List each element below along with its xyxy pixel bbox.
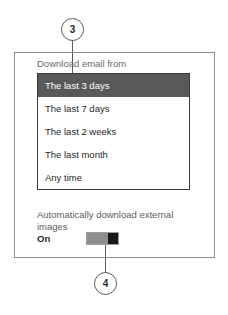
listbox-option-last-3-days[interactable]: The last 3 days [38, 74, 189, 97]
download-email-from-listbox[interactable]: The last 3 days The last 7 days The last… [37, 73, 190, 190]
callout-marker-4-label: 4 [103, 279, 109, 289]
listbox-option-last-2-weeks[interactable]: The last 2 weeks [38, 120, 189, 143]
toggle-thumb [108, 233, 118, 244]
external-images-toggle[interactable] [86, 232, 119, 245]
listbox-option-any-time[interactable]: Any time [38, 166, 189, 189]
listbox-option-label: Any time [45, 172, 82, 183]
callout-marker-3: 3 [61, 18, 84, 41]
listbox-option-last-month[interactable]: The last month [38, 143, 189, 166]
listbox-option-label: The last 2 weeks [45, 126, 116, 137]
external-images-state-label: On [37, 233, 50, 244]
listbox-option-last-7-days[interactable]: The last 7 days [38, 97, 189, 120]
callout-marker-4: 4 [94, 272, 117, 295]
listbox-option-label: The last 3 days [45, 80, 109, 91]
callout-marker-3-label: 3 [70, 25, 76, 35]
download-email-from-label: Download email from [37, 58, 126, 69]
listbox-option-label: The last 7 days [45, 103, 109, 114]
external-images-label: Automatically download external images [37, 209, 187, 232]
listbox-option-label: The last month [45, 149, 108, 160]
